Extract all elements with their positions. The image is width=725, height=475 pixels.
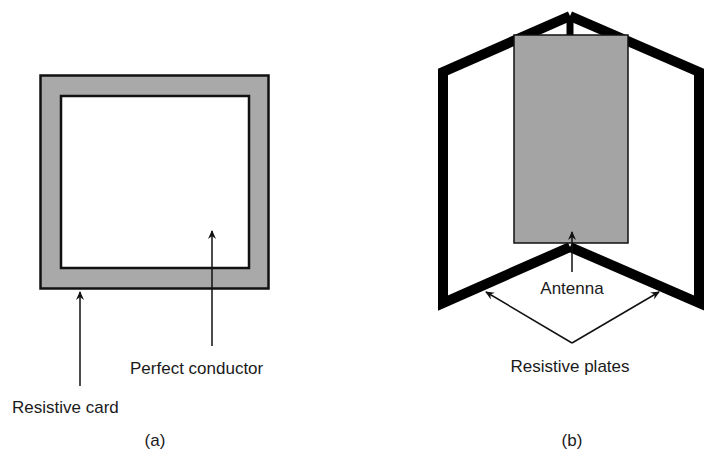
resistive-plates-arrow-right bbox=[572, 292, 659, 343]
figure-b-caption: (b) bbox=[562, 431, 583, 450]
perfect-conductor-region bbox=[61, 96, 249, 268]
resistive-plates-arrow-left bbox=[486, 292, 572, 343]
diagram-canvas: Perfect conductor Resistive card (a) Ant… bbox=[0, 0, 725, 475]
figure-a-caption: (a) bbox=[145, 431, 166, 450]
resistive-plates-label: Resistive plates bbox=[510, 357, 629, 376]
resistive-card-label: Resistive card bbox=[12, 398, 119, 417]
antenna-label: Antenna bbox=[540, 279, 604, 298]
antenna bbox=[514, 35, 628, 243]
perfect-conductor-label: Perfect conductor bbox=[130, 359, 264, 378]
figure-a: Perfect conductor Resistive card (a) bbox=[12, 76, 269, 451]
figure-b: Antenna Resistive plates (b) bbox=[443, 16, 699, 450]
